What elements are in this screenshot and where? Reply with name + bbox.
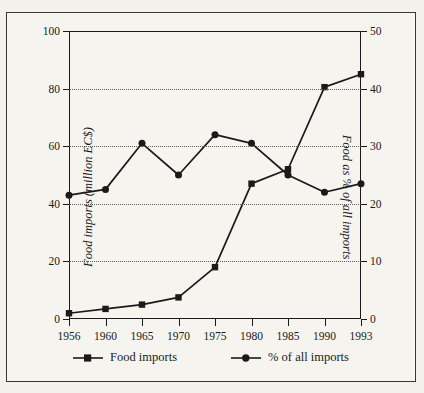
legend-label-percent-of-all-imports: % of all imports	[268, 350, 349, 365]
x-tick-label: 1975	[204, 330, 227, 342]
plot-area: 020406080100 01020304050 195619601965197…	[69, 31, 361, 319]
x-tick-label: 1970	[167, 330, 190, 342]
x-tick-mark	[288, 319, 289, 326]
right-tick-label: 0	[370, 313, 376, 325]
left-tick-mark	[63, 261, 69, 262]
right-tick-mark	[361, 89, 367, 90]
x-tick-mark	[215, 319, 216, 326]
x-tick-label: 1980	[240, 330, 263, 342]
x-tick-label: 1956	[58, 330, 81, 342]
right-tick-label: 10	[370, 255, 382, 267]
left-tick-label: 20	[49, 255, 61, 267]
right-tick-label: 40	[370, 83, 382, 95]
x-tick-mark	[142, 319, 143, 326]
right-tick-mark	[361, 146, 367, 147]
left-tick-label: 0	[54, 313, 60, 325]
legend-item-percent-of-all-imports: % of all imports	[231, 350, 349, 365]
gridline	[69, 89, 361, 90]
right-tick-mark	[361, 204, 367, 205]
left-tick-label: 40	[49, 198, 61, 210]
x-tick-label: 1960	[94, 330, 117, 342]
gridline	[69, 146, 361, 147]
left-tick-label: 100	[43, 25, 60, 37]
plot-frame	[69, 31, 361, 319]
circle-marker-icon	[231, 352, 261, 364]
x-tick-label: 1990	[313, 330, 336, 342]
left-tick-mark	[63, 89, 69, 90]
right-tick-label: 50	[370, 25, 382, 37]
gridline	[69, 261, 361, 262]
right-tick-mark	[361, 31, 367, 32]
chart-legend: Food imports % of all imports	[7, 350, 415, 365]
x-tick-label: 1985	[277, 330, 300, 342]
left-tick-mark	[63, 204, 69, 205]
x-tick-mark	[179, 319, 180, 326]
right-tick-label: 30	[370, 140, 382, 152]
x-tick-label: 1993	[350, 330, 373, 342]
legend-item-food-imports: Food imports	[73, 350, 177, 365]
right-tick-label: 20	[370, 198, 382, 210]
x-tick-label: 1965	[131, 330, 154, 342]
x-tick-mark	[69, 319, 70, 326]
x-tick-mark	[252, 319, 253, 326]
x-tick-mark	[106, 319, 107, 326]
left-tick-mark	[63, 31, 69, 32]
legend-label-food-imports: Food imports	[110, 350, 177, 365]
gridline	[69, 204, 361, 205]
x-tick-mark	[361, 319, 362, 326]
left-tick-mark	[63, 146, 69, 147]
left-tick-label: 60	[49, 140, 61, 152]
right-tick-mark	[361, 261, 367, 262]
left-tick-label: 80	[49, 83, 61, 95]
chart-figure: Food imports (million EC$) Food as % of …	[6, 12, 416, 382]
square-marker-icon	[73, 352, 103, 364]
x-tick-mark	[325, 319, 326, 326]
